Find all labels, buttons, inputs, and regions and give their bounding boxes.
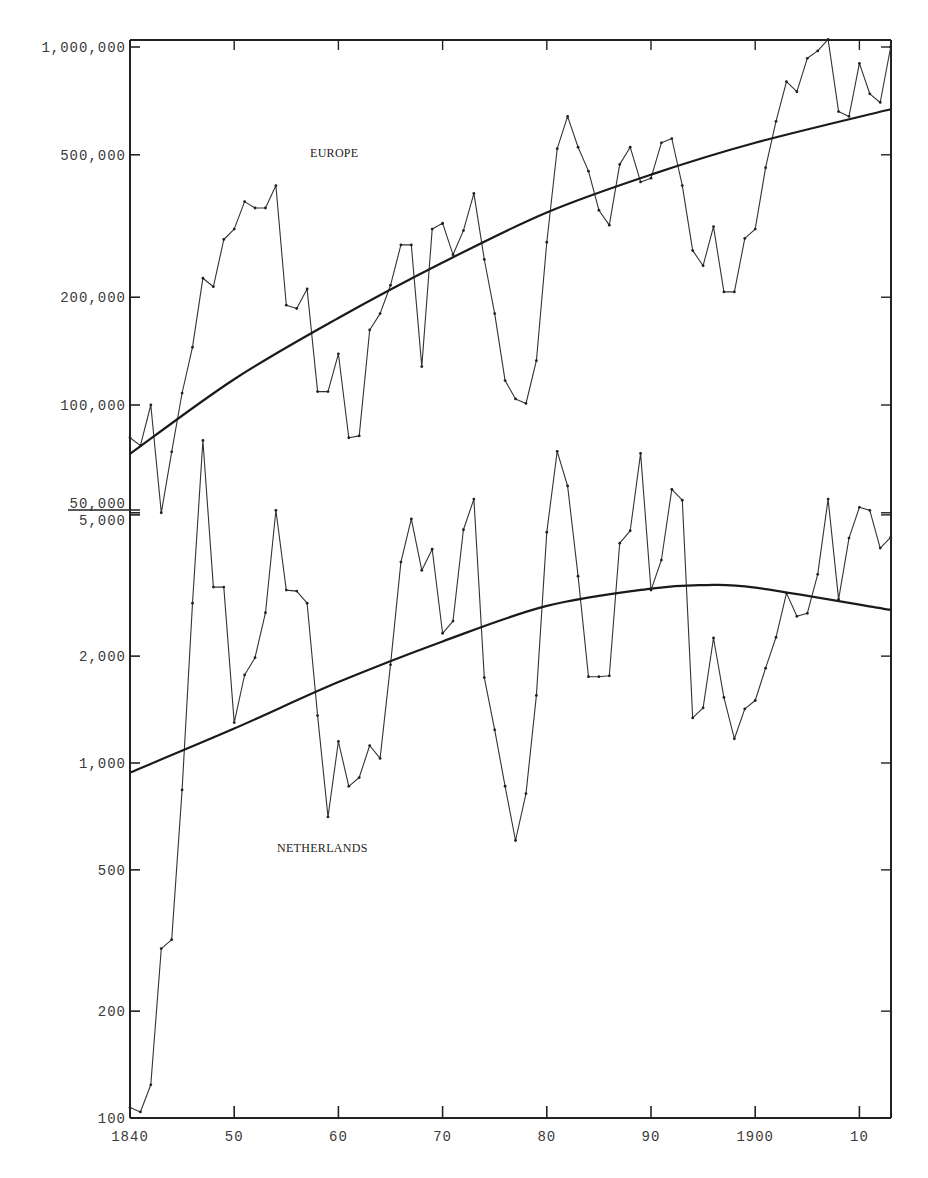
data-point xyxy=(743,237,746,240)
y-tick-label: 1,000 xyxy=(79,756,126,772)
data-point xyxy=(702,706,705,709)
y-tick-label: 5,000 xyxy=(79,513,126,529)
data-point xyxy=(472,192,475,195)
data-point xyxy=(233,228,236,231)
data-point xyxy=(295,590,298,593)
data-point xyxy=(587,675,590,678)
data-point xyxy=(566,115,569,118)
x-tick-label: 1900 xyxy=(736,1129,774,1145)
data-point xyxy=(712,225,715,228)
data-point xyxy=(827,38,830,41)
data-point xyxy=(577,146,580,149)
data-point xyxy=(743,708,746,711)
data-point xyxy=(400,244,403,247)
data-point xyxy=(441,632,444,635)
data-point xyxy=(879,101,882,104)
data-point xyxy=(202,439,205,442)
data-point xyxy=(462,528,465,531)
y-tick-label: 2,000 xyxy=(79,649,126,665)
data-point xyxy=(868,509,871,512)
netherlands-label: NETHERLANDS xyxy=(277,841,368,855)
data-point xyxy=(545,531,548,534)
data-point xyxy=(368,329,371,332)
data-point xyxy=(337,740,340,743)
data-point xyxy=(254,656,257,659)
y-tick-label: 500 xyxy=(98,863,126,879)
data-point xyxy=(556,147,559,150)
data-point xyxy=(629,529,632,532)
data-point xyxy=(681,499,684,502)
data-point xyxy=(316,714,319,717)
data-point xyxy=(400,561,403,564)
data-point xyxy=(764,166,767,169)
data-point xyxy=(285,304,288,307)
netherlands-series xyxy=(129,439,892,1113)
data-point xyxy=(525,792,528,795)
data-point xyxy=(483,258,486,261)
data-point xyxy=(160,947,163,950)
data-point xyxy=(639,452,642,455)
data-point xyxy=(358,776,361,779)
data-point xyxy=(337,352,340,355)
data-point xyxy=(285,589,288,592)
data-point xyxy=(650,177,653,180)
data-point xyxy=(806,612,809,615)
data-point xyxy=(608,674,611,677)
data-point xyxy=(608,224,611,227)
data-point xyxy=(379,312,382,315)
data-point xyxy=(202,277,205,280)
data-point xyxy=(264,611,267,614)
data-point xyxy=(660,141,663,144)
data-point xyxy=(160,511,163,514)
data-point xyxy=(504,379,507,382)
data-point xyxy=(368,744,371,747)
data-point xyxy=(691,716,694,719)
data-point xyxy=(879,547,882,550)
europe-label: EUROPE xyxy=(310,146,358,160)
data-point xyxy=(306,602,309,605)
data-point xyxy=(670,488,673,491)
trend-line xyxy=(130,109,891,454)
data-point xyxy=(504,785,507,788)
europe-series xyxy=(129,38,892,514)
data-point xyxy=(723,290,726,293)
dual-log-line-chart: 18405060708090190010 1,000,000500,000200… xyxy=(0,0,928,1178)
data-point xyxy=(420,569,423,572)
data-point xyxy=(274,184,277,187)
data-point xyxy=(858,62,861,65)
data-point xyxy=(139,1111,142,1114)
y-tick-label: 1,000,000 xyxy=(41,40,126,56)
data-point xyxy=(347,436,350,439)
data-point xyxy=(222,238,225,241)
data-point xyxy=(764,667,767,670)
x-tick-label: 1840 xyxy=(111,1129,149,1145)
data-point xyxy=(535,694,538,697)
data-point xyxy=(274,509,277,512)
data-point xyxy=(254,207,257,210)
data-point xyxy=(191,346,194,349)
data-point xyxy=(379,757,382,760)
data-point xyxy=(670,137,673,140)
x-tick-label: 90 xyxy=(642,1129,661,1145)
data-point xyxy=(149,1083,152,1086)
data-point xyxy=(785,80,788,83)
data-point xyxy=(858,506,861,509)
data-point xyxy=(816,573,819,576)
data-point xyxy=(795,90,798,93)
x-tick-label: 60 xyxy=(329,1129,348,1145)
netherlands-y-axis-ticks: 5,0002,0001,000500200100 xyxy=(79,513,891,1127)
data-point xyxy=(598,209,601,212)
data-point xyxy=(170,450,173,453)
data-point xyxy=(212,586,215,589)
data-point xyxy=(848,537,851,540)
data-point xyxy=(535,359,538,362)
data-point xyxy=(149,404,152,407)
data-point xyxy=(816,50,819,53)
data-point xyxy=(556,450,559,453)
x-tick-label: 70 xyxy=(433,1129,452,1145)
data-point xyxy=(181,392,184,395)
data-point xyxy=(129,436,132,439)
data-point xyxy=(889,46,892,49)
data-point xyxy=(889,536,892,539)
data-point xyxy=(733,290,736,293)
